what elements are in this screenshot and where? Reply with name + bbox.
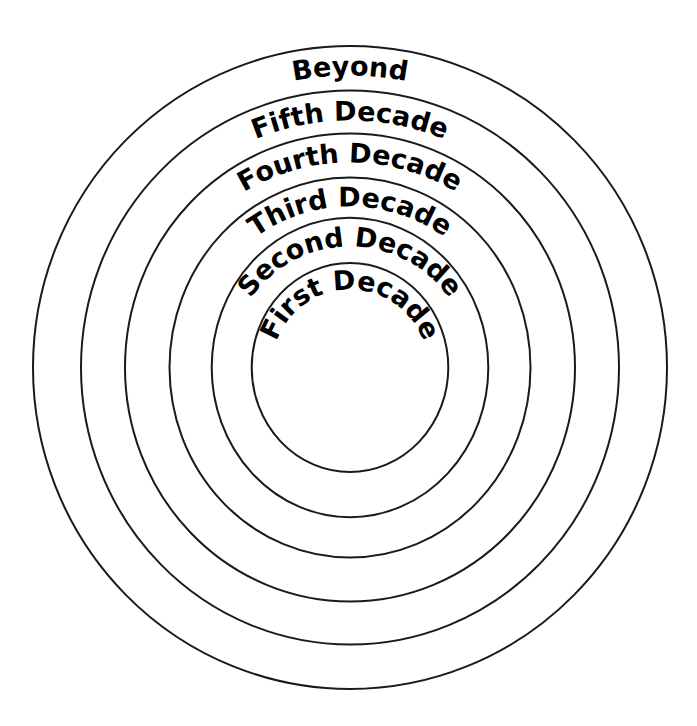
ring-label-first-decade: First Decade (253, 264, 446, 344)
ring-outline-fifth-decade (81, 91, 619, 645)
rings-canvas: BeyondFifth DecadeFourth DecadeThird Dec… (0, 0, 697, 726)
ring-labels-group: BeyondFifth DecadeFourth DecadeThird Dec… (231, 50, 469, 344)
concentric-rings-diagram: BeyondFifth DecadeFourth DecadeThird Dec… (0, 0, 697, 726)
ring-label-textpath-beyond: Beyond (289, 50, 410, 86)
ring-label-textpath-first-decade: First Decade (253, 264, 446, 344)
ring-label-beyond: Beyond (289, 50, 410, 86)
